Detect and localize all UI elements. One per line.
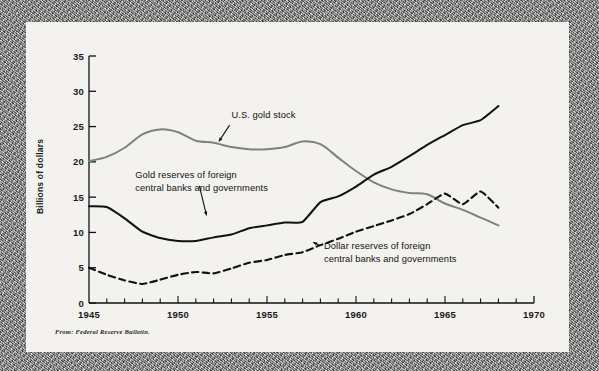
series-label-2: Dollar reserves of foreign [324,241,430,251]
x-tick-label: 1945 [78,309,100,320]
y-tick-label: 0 [79,298,84,309]
y-axis-title: Billions of dollars [35,139,45,214]
y-tick-label: 10 [73,227,84,238]
y-tick-label: 20 [73,156,84,167]
y-tick-label: 30 [73,86,84,97]
series-label-2-line2: central banks and governments [324,254,457,264]
y-tick-label: 25 [73,121,84,132]
series-label-0: U.S. gold stock [231,110,295,120]
x-tick-label: 1970 [523,309,545,320]
figure-panel: 05101520253035 194519501955196019651970 … [26,22,569,352]
x-tick-label: 1950 [167,309,189,320]
source-note: From: Federal Reserve Bulletin. [55,328,150,335]
y-tick-label: 5 [79,262,85,273]
x-tick-label: 1960 [345,309,367,320]
series-label-1: Gold reserves of foreign [135,170,237,180]
x-tick-label: 1965 [434,309,456,320]
y-tick-label: 35 [73,51,84,62]
y-tick-label: 15 [73,192,84,203]
series-label-1-line2: central banks and governments [135,183,268,193]
line-chart: 05101520253035 194519501955196019651970 … [26,22,569,352]
x-tick-label: 1955 [256,309,278,320]
